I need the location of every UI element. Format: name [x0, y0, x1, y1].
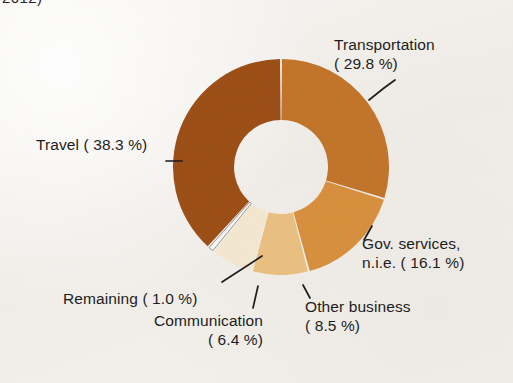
slice-label-transportation-name: Transportation — [334, 36, 435, 53]
slice-label-transportation: Transportation ( 29.8 %) — [334, 36, 435, 73]
slice-label-travel: Travel ( 38.3 %) — [36, 136, 147, 155]
slice-label-communication-name: Communication — [98, 312, 263, 331]
leader-line-communication — [253, 286, 258, 308]
donut-slice-transportation[interactable]: Transportation (29.8 %) — [281, 59, 389, 198]
slice-label-other-business-value: ( 8.5 %) — [305, 317, 411, 336]
leader-line-transportation — [369, 80, 395, 100]
slice-label-other-business: Other business ( 8.5 %) — [305, 298, 411, 335]
donut-chart: Transportation (29.8 %)Gov. services, n.… — [0, 0, 513, 383]
slice-label-communication: Communication ( 6.4 %) — [98, 312, 263, 349]
slice-label-remaining-text: Remaining ( 1.0 %) — [63, 290, 197, 307]
leader-line-other — [303, 285, 310, 298]
slice-label-gov-services-name: Gov. services, — [362, 235, 460, 252]
slice-label-remaining: Remaining ( 1.0 %) — [63, 290, 197, 309]
slice-label-travel-text: Travel ( 38.3 %) — [36, 136, 147, 153]
slice-label-gov-services: Gov. services, n.i.e. ( 16.1 %) — [362, 235, 464, 272]
donut-slices: Transportation (29.8 %)Gov. services, n.… — [173, 59, 389, 275]
slice-label-gov-services-value: n.i.e. ( 16.1 %) — [362, 254, 464, 273]
slice-label-other-business-name: Other business — [305, 298, 411, 315]
slice-label-transportation-value: ( 29.8 %) — [334, 55, 435, 74]
slice-label-communication-value: ( 6.4 %) — [98, 331, 263, 350]
